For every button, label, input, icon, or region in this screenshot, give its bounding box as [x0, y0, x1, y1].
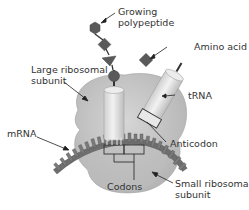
label-mrna: mRNA [7, 128, 36, 139]
label-amino-acid: Amino acid [194, 41, 247, 52]
label-codons: Codons [107, 181, 142, 192]
circle-icon [109, 71, 120, 82]
amino-acid-icon [139, 53, 153, 67]
label-anticodon: Anticodon [170, 138, 218, 149]
label-trna: tRNA [188, 90, 212, 101]
label-small-ribosomal-subunit: Small ribosomal subunit [175, 178, 249, 200]
label-large-ribosomal-subunit: Large ribosomal subunit [31, 64, 108, 86]
label-growing-polypeptide: Growing polypeptide [118, 6, 174, 28]
diamond-icon [98, 38, 111, 51]
hexagon-icon [90, 22, 100, 34]
